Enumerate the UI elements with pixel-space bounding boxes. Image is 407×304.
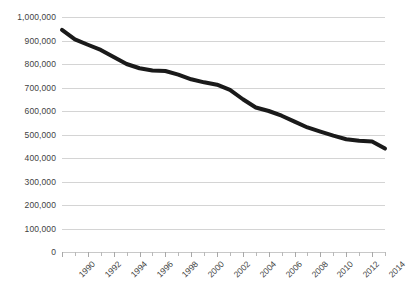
x-axis-tick-major bbox=[217, 252, 218, 257]
x-axis-tick-label: 2014 bbox=[387, 259, 407, 279]
y-axis-tick-label: 400,000 bbox=[25, 153, 56, 163]
x-axis-tick-major bbox=[114, 252, 115, 257]
x-axis-tick-major bbox=[295, 252, 296, 257]
x-axis-tick-label: 1996 bbox=[154, 259, 174, 279]
x-axis-tick-label: 2000 bbox=[206, 259, 226, 279]
x-axis-tick-minor bbox=[282, 252, 283, 256]
x-axis-tick-major bbox=[269, 252, 270, 257]
x-axis-tick-label: 1998 bbox=[180, 259, 200, 279]
x-axis-tick-label: 2006 bbox=[283, 259, 303, 279]
x-axis-tick-minor bbox=[385, 252, 386, 256]
x-axis-tick-minor bbox=[307, 252, 308, 256]
y-axis-tick-label: 1,000,000 bbox=[17, 12, 56, 22]
x-axis-tick-label: 2010 bbox=[335, 259, 355, 279]
plot-area bbox=[62, 17, 385, 252]
y-axis-tick-label: 300,000 bbox=[25, 177, 56, 187]
x-axis-tick-label: 2012 bbox=[361, 259, 381, 279]
x-axis-tick-major bbox=[140, 252, 141, 257]
x-axis-tick-minor bbox=[204, 252, 205, 256]
x-axis-tick-major bbox=[191, 252, 192, 257]
x-axis: 1990199219941996199820002002200420062008… bbox=[62, 252, 385, 304]
x-axis-tick-minor bbox=[178, 252, 179, 256]
x-axis-tick-major bbox=[372, 252, 373, 257]
x-axis-tick-minor bbox=[101, 252, 102, 256]
y-axis-tick-label: 100,000 bbox=[25, 224, 56, 234]
y-axis-tick-label: 600,000 bbox=[25, 106, 56, 116]
y-axis-tick-label: 700,000 bbox=[25, 83, 56, 93]
x-axis-tick-minor bbox=[359, 252, 360, 256]
series-line-svg bbox=[62, 17, 385, 252]
x-axis-tick-minor bbox=[127, 252, 128, 256]
x-axis-tick-minor bbox=[230, 252, 231, 256]
x-axis-tick-major bbox=[320, 252, 321, 257]
y-axis-tick-labels: 1,000,000900,000800,000700,000600,000500… bbox=[0, 17, 56, 252]
x-axis-tick-minor bbox=[152, 252, 153, 256]
x-axis-tick-minor bbox=[256, 252, 257, 256]
series-1-line bbox=[62, 30, 385, 149]
y-axis-tick-label: 500,000 bbox=[25, 130, 56, 140]
y-axis-tick-label: 800,000 bbox=[25, 59, 56, 69]
x-axis-tick-major bbox=[165, 252, 166, 257]
x-axis-tick-label: 1994 bbox=[128, 259, 148, 279]
x-axis-tick-label: 1990 bbox=[77, 259, 97, 279]
x-axis-tick-label: 1992 bbox=[102, 259, 122, 279]
y-axis-tick-label: 200,000 bbox=[25, 200, 56, 210]
x-axis-tick-minor bbox=[75, 252, 76, 256]
x-axis-tick-major bbox=[62, 252, 63, 257]
x-axis-tick-major bbox=[346, 252, 347, 257]
y-axis-tick-label: 0 bbox=[51, 247, 56, 257]
x-axis-tick-major bbox=[243, 252, 244, 257]
x-axis-tick-major bbox=[88, 252, 89, 257]
x-axis-tick-label: 2008 bbox=[309, 259, 329, 279]
x-axis-tick-minor bbox=[333, 252, 334, 256]
x-axis-tick-label: 2004 bbox=[257, 259, 277, 279]
y-axis-tick-label: 900,000 bbox=[25, 36, 56, 46]
x-axis-tick-label: 2002 bbox=[232, 259, 252, 279]
